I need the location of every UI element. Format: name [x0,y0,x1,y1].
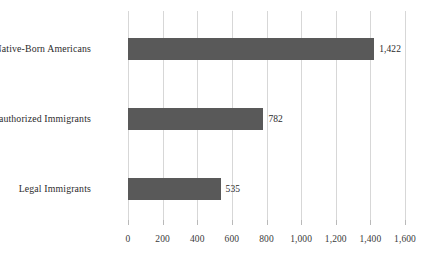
x-axis-tick-label: 1,400 [359,233,381,245]
bar-value-label: 1,422 [379,38,401,60]
x-axis-tick [370,220,371,225]
bar[interactable] [128,178,221,200]
x-axis-tick-label: 1,200 [325,233,347,245]
category-label: Native-Born Americans [0,38,91,60]
bar[interactable] [128,38,374,60]
x-axis-tick [197,220,198,225]
x-axis-tick-label: 0 [126,233,131,245]
x-axis-tick-label: 600 [225,233,240,245]
x-axis-tick [336,220,337,225]
x-axis-tick-label: 800 [259,233,274,245]
category-label: Unauthorized Immigrants [0,108,91,130]
x-axis-tick [267,220,268,225]
bar-chart: 02004006008001,0001,2001,4001,6001,422Na… [0,0,430,254]
gridline [405,11,406,220]
x-axis-tick [301,220,302,225]
x-axis-tick [128,220,129,225]
bar-value-label: 782 [268,108,283,130]
x-axis-tick-label: 400 [190,233,205,245]
x-axis-tick [163,220,164,225]
bar-value-label: 535 [226,178,241,200]
x-axis-tick-label: 1,000 [290,233,312,245]
plot-area: 02004006008001,0001,2001,4001,6001,422Na… [128,11,405,220]
category-label: Legal Immigrants [0,178,91,200]
x-axis-tick [232,220,233,225]
x-axis-tick-label: 1,600 [394,233,416,245]
x-axis-tick [405,220,406,225]
bar[interactable] [128,108,263,130]
x-axis-tick-label: 200 [155,233,170,245]
